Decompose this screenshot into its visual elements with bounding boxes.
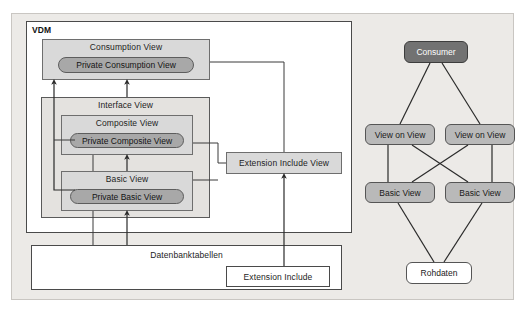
private-composite-view-pill[interactable]: Private Composite View	[70, 133, 184, 148]
private-consumption-view-label: Private Consumption View	[76, 60, 176, 70]
consumer-label: Consumer	[416, 47, 455, 57]
private-composite-view-label: Private Composite View	[82, 136, 172, 146]
extension-include-view-label: Extension Include View	[239, 158, 329, 168]
basic-view-label: Basic View	[62, 174, 192, 184]
view-on-view-left-label: View on View	[375, 130, 426, 140]
extension-include-view-box[interactable]: Extension Include View	[226, 152, 342, 174]
private-basic-view-label: Private Basic View	[92, 192, 162, 202]
private-consumption-view-pill[interactable]: Private Consumption View	[58, 57, 194, 73]
private-basic-view-pill[interactable]: Private Basic View	[70, 189, 184, 204]
diagram-canvas: VDM Consumption View Private Consumption…	[0, 0, 532, 315]
consumption-view-label: Consumption View	[43, 42, 209, 52]
view-on-view-right-node[interactable]: View on View	[445, 124, 515, 145]
rohdaten-node[interactable]: Rohdaten	[406, 262, 472, 284]
view-on-view-right-label: View on View	[455, 130, 506, 140]
consumer-node[interactable]: Consumer	[404, 41, 468, 63]
extension-include-label: Extension Include	[244, 272, 313, 282]
rohdaten-label: Rohdaten	[421, 268, 458, 278]
composite-view-label: Composite View	[62, 118, 192, 128]
datenbanktabellen-label: Datenbanktabellen	[32, 250, 341, 260]
interface-view-label: Interface View	[42, 100, 209, 110]
view-on-view-left-node[interactable]: View on View	[365, 124, 435, 145]
basic-view-left-label: Basic View	[379, 188, 420, 198]
basic-view-left-node[interactable]: Basic View	[365, 182, 435, 203]
extension-include-box[interactable]: Extension Include	[226, 266, 330, 287]
basic-view-right-label: Basic View	[459, 188, 500, 198]
vdm-label: VDM	[32, 25, 51, 35]
basic-view-right-node[interactable]: Basic View	[445, 182, 515, 203]
